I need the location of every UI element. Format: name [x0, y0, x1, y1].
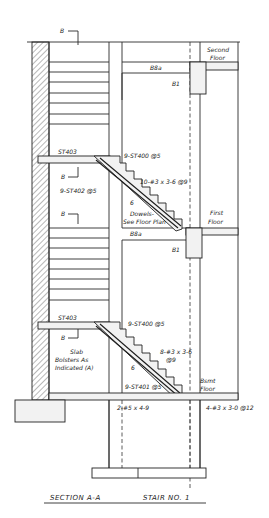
lower-rise-mark: 6: [131, 364, 135, 371]
section-marker-b: B: [61, 210, 65, 217]
bolsters-label-2: Bolsters As: [55, 356, 88, 363]
upper-flight: ST403 9-ST400 @5 10-#3 x 3-6 @9 9-ST402 …: [38, 148, 188, 231]
basement-floor-slab: [49, 393, 238, 400]
lower-b1-label: B1: [172, 246, 180, 253]
upper-treads: [49, 62, 109, 124]
upper-stirrups-label: 10-#3 x 3-6 @9: [140, 178, 188, 186]
column-footing: [92, 468, 206, 478]
dowels-label-2: See Floor Plan: [123, 218, 166, 225]
wall-footing: [15, 400, 65, 422]
basement-floor-label-2: Floor: [200, 385, 215, 392]
lower-b1-beam: [186, 228, 202, 258]
bolsters-label-3: Indicated (A): [55, 364, 94, 371]
first-floor-label: First: [210, 209, 224, 216]
lower-landing-bar-label: ST403: [58, 314, 77, 321]
upper-landing-bar-label: ST403: [58, 148, 77, 155]
upper-rise-mark: 6: [130, 199, 134, 206]
lower-flight: ST403 9-ST400 @5 8-#3 x 3-6 @9 6 Slab Bo…: [38, 314, 192, 399]
section-marker-b: B: [60, 27, 64, 34]
upper-beam-label: B8a: [150, 64, 162, 71]
second-floor-label: Second: [207, 46, 229, 53]
lower-beam-label: B8a: [130, 230, 142, 237]
section-marker-b: B: [61, 173, 65, 180]
stair-section-drawing: B8a Second Floor B1 B B B B ST403 9-ST40…: [0, 0, 269, 518]
upper-b1-beam: [190, 62, 206, 94]
first-floor-label-2: Floor: [208, 218, 223, 225]
footing-bar-right-label: 4-#3 x 3-0 @12: [206, 404, 254, 412]
bolsters-label: Slab: [70, 348, 83, 355]
middle-treads: [49, 228, 109, 300]
lower-top-bar-label: 9-ST400 @5: [128, 320, 165, 328]
lower-stirrups-label: 8-#3 x 3-6: [160, 348, 192, 355]
lower-stirrups-label-2: @9: [166, 356, 176, 364]
upper-top-bar-label: 9-ST400 @5: [124, 152, 161, 160]
lower-bottom-bar-label: 9-ST401 @5: [125, 383, 162, 391]
section-title: SECTION A-A: [50, 494, 101, 502]
masonry-wall: [32, 42, 49, 400]
section-marker-b: B: [61, 334, 65, 341]
stair-title: STAIR NO. 1: [143, 494, 190, 502]
dowels-label: Dowels-: [130, 210, 154, 217]
upper-b1-label: B1: [172, 80, 180, 87]
basement-floor-label: Bsmt: [200, 377, 216, 384]
second-floor-label-2: Floor: [210, 54, 225, 61]
upper-bottom-bar-label: 9-ST402 @5: [60, 187, 97, 195]
